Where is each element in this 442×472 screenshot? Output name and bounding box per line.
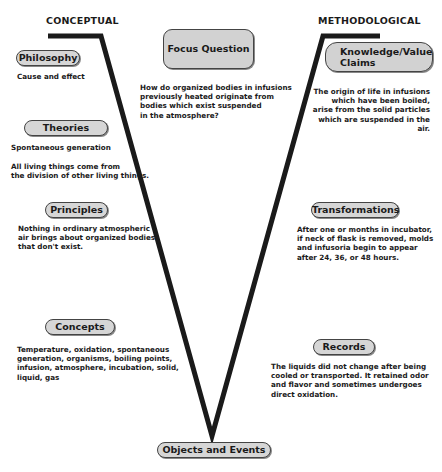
records-text: The liquids did not change after being c…	[271, 362, 429, 399]
focus-question-text: How do organized bodies in infusions pre…	[140, 83, 292, 120]
philosophy-label: Philosophy	[16, 50, 80, 66]
philosophy-text: Cause and effect	[17, 72, 85, 81]
concepts-label: Concepts	[45, 319, 115, 335]
methodological-heading: METHODOLOGICAL	[318, 15, 421, 26]
knowledge-value-claims-text: The origin of life in infusions which ha…	[307, 87, 430, 133]
records-label: Records	[313, 339, 375, 355]
theories-label: Theories	[24, 120, 108, 136]
conceptual-heading: CONCEPTUAL	[46, 15, 119, 26]
focus-question-label: Focus Question	[167, 43, 249, 54]
principles-label: Principles	[45, 202, 108, 218]
focus-question-box: Focus Question	[163, 29, 254, 69]
principles-text: Nothing in ordinary atmospheric air brin…	[18, 224, 155, 252]
theories-text-2: All living things come from the division…	[11, 162, 149, 180]
theories-text-1: Spontaneous generation	[11, 143, 111, 152]
knowledge-value-claims-box: Knowledge/Value Claims	[325, 42, 433, 72]
transformations-text: After one or months in incubator, if nec…	[297, 225, 433, 262]
transformations-label: Transformations	[311, 202, 399, 218]
objects-and-events-label: Objects and Events	[157, 442, 271, 458]
knowledge-value-claims-label: Knowledge/Value Claims	[326, 43, 432, 68]
concepts-text: Temperature, oxidation, spontaneous gene…	[17, 345, 179, 382]
